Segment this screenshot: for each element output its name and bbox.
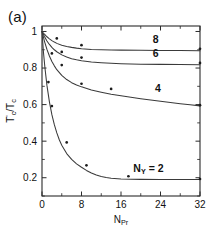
data-point-2 [47, 81, 50, 84]
data-point-2 [85, 164, 88, 167]
data-point-2 [199, 178, 202, 181]
curve-annotations: 864NY = 2 [133, 33, 163, 176]
data-point-8 [80, 44, 83, 47]
curve-label-8: 8 [153, 33, 159, 45]
data-curves [42, 31, 200, 179]
x-axis-title: NPr [114, 214, 129, 227]
curve-series-6 [42, 31, 200, 64]
data-point-4 [60, 64, 63, 67]
axis-titles: NPrT'c/Tc [4, 99, 128, 228]
x-axis-ticks [42, 26, 200, 196]
chart-canvas: 08162432 0.20.40.60.81 864NY = 2 NPrT'c/… [0, 0, 222, 239]
data-point-2 [65, 141, 68, 144]
x-tick-label: 0 [39, 199, 45, 210]
curve-label-ny2: NY = 2 [133, 162, 163, 176]
plot-frame [42, 26, 200, 196]
curve-label-4: 4 [155, 82, 161, 94]
y-tick-label: 0.8 [23, 62, 37, 73]
figure-panel: (a) 08162432 0.20.40.60.81 864NY = 2 NPr… [0, 0, 222, 239]
x-tick-label: 8 [79, 199, 85, 210]
x-tick-labels: 08162432 [39, 199, 206, 210]
data-point-4 [199, 104, 202, 107]
data-point-6 [199, 62, 202, 65]
y-tick-label: 0.6 [23, 99, 37, 110]
y-tick-label: 1 [31, 26, 37, 37]
curve-series-8 [42, 31, 200, 50]
data-point-2 [51, 105, 54, 108]
x-tick-label: 24 [155, 199, 167, 210]
data-point-4 [80, 82, 83, 85]
x-tick-label: 32 [194, 199, 206, 210]
y-tick-label: 0.4 [23, 136, 37, 147]
data-point-4 [51, 52, 54, 55]
data-point-6 [80, 56, 83, 59]
curve-series-2 [42, 31, 200, 179]
data-point-2 [127, 175, 130, 178]
data-point-6 [60, 51, 63, 54]
x-tick-label: 16 [115, 199, 127, 210]
data-point-4 [110, 88, 113, 91]
curve-label-6: 6 [153, 47, 159, 59]
y-tick-labels: 0.20.40.60.81 [23, 26, 37, 183]
data-point-8 [55, 37, 58, 40]
y-axis-title: T'c/Tc [4, 99, 18, 123]
data-point-8 [199, 48, 202, 51]
curve-series-4 [42, 31, 200, 105]
axis-box [42, 26, 200, 196]
y-tick-label: 0.2 [23, 172, 37, 183]
